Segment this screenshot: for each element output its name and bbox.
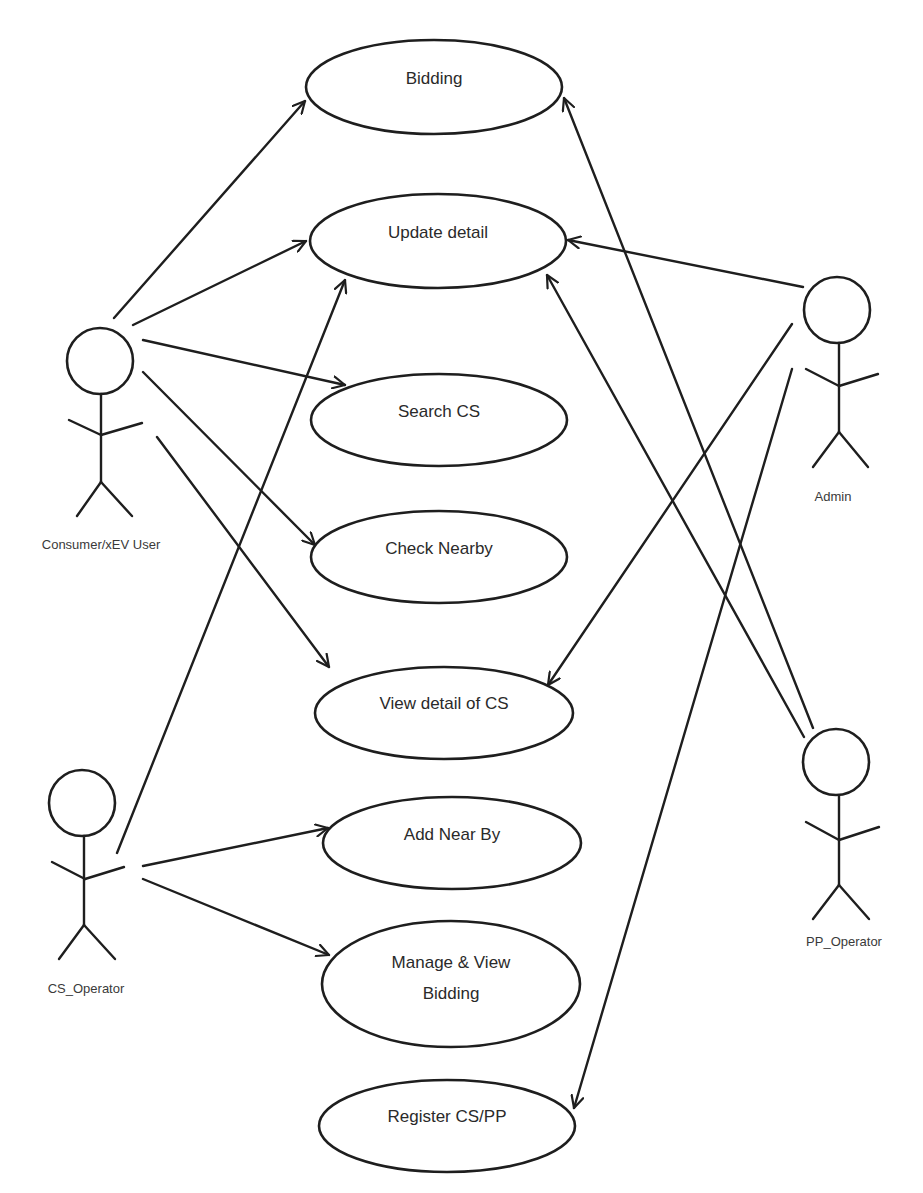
assoc-consumer-update-detail: [133, 241, 306, 325]
actor-label-admin: Admin: [815, 489, 852, 504]
usecase-label-register-cs-pp: Register CS/PP: [387, 1101, 506, 1132]
usecase-label-manage-view-line2: Bidding: [423, 978, 480, 1009]
actor-pp-operator-icon: [803, 729, 879, 919]
assoc-ppop-update-detail: [547, 275, 804, 737]
use-case-diagram: [0, 0, 923, 1193]
actor-label-pp-operator: PP_Operator: [806, 934, 882, 949]
usecase-label-check-nearby: Check Nearby: [385, 533, 493, 564]
assoc-csop-manage-bidding: [143, 879, 329, 955]
usecase-label-bidding: Bidding: [406, 63, 463, 94]
assoc-consumer-check-nearby: [143, 372, 315, 545]
assoc-csop-update-detail: [117, 280, 345, 853]
actor-admin-icon: [804, 277, 878, 467]
actor-cs-operator-icon: [49, 770, 124, 959]
actor-consumer-icon: [67, 328, 142, 516]
assoc-admin-register: [574, 369, 792, 1108]
assoc-admin-update-detail: [568, 240, 803, 287]
assoc-consumer-search-cs: [143, 340, 345, 385]
actor-label-consumer: Consumer/xEV User: [42, 537, 160, 552]
usecase-label-update-detail: Update detail: [388, 217, 488, 248]
assoc-consumer-bidding: [114, 101, 305, 318]
usecase-label-search-cs: Search CS: [398, 396, 480, 427]
usecase-label-add-near-by: Add Near By: [404, 819, 500, 850]
assoc-csop-add-near-by: [143, 828, 328, 866]
actor-label-cs-operator: CS_Operator: [48, 981, 125, 996]
assoc-ppop-bidding: [564, 98, 813, 728]
usecase-label-manage-view-line1: Manage & View: [392, 947, 511, 978]
assoc-admin-view-detail: [548, 324, 792, 685]
usecase-label-view-detail-cs: View detail of CS: [379, 688, 508, 719]
